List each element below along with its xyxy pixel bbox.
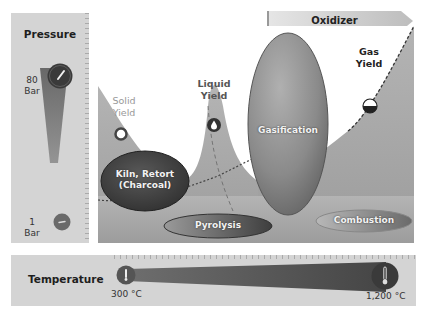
temperature-high-label: 1,200 °C [366,291,405,301]
pyrolysis-label: Pyrolysis [168,220,268,231]
kiln-retort-label: Kiln, Retort (Charcoal) [103,169,187,191]
pressure-gauge-low-icon [53,213,71,231]
temperature-gauge-bar [11,255,416,306]
process-diagram: Solid Yield Liquid Yield Gas Yield Kiln,… [98,26,414,243]
temperature-panel: Temperature 300 °C 1,200 °C [11,255,416,306]
gas-yield-label: Gas Yield [351,46,387,70]
pressure-panel: Pressure 80 Bar 1 Bar [11,13,89,243]
gasification-label: Gasification [248,125,328,136]
pressure-low-label: 1 Bar [17,217,47,239]
thermometer-high-icon [371,262,399,290]
solid-yield-icon [114,127,128,141]
liquid-yield-label: Liquid Yield [194,78,234,102]
solid-yield-label: Solid Yield [106,95,142,119]
gas-yield-icon [362,98,378,114]
combustion-label: Combustion [318,215,410,226]
pressure-gauge-high-icon [47,63,73,89]
temperature-low-label: 300 °C [111,289,142,299]
thermometer-low-icon [116,265,136,285]
pressure-gauge-bar [11,13,89,243]
liquid-yield-droplet-icon [206,117,222,133]
pressure-high-label: 80 Bar [17,75,47,97]
